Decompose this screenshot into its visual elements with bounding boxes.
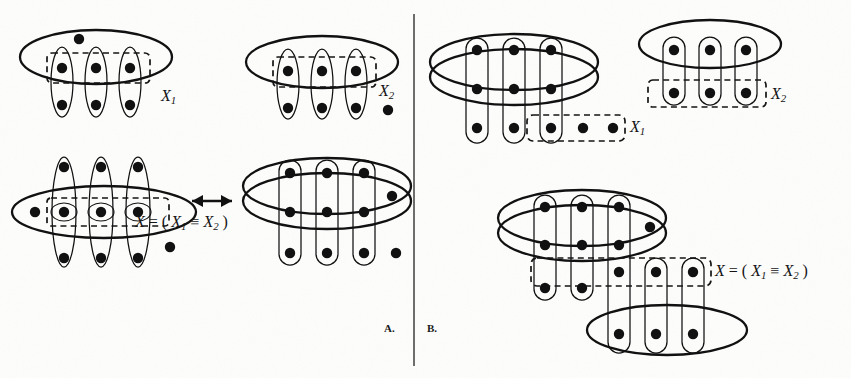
dot — [91, 63, 101, 73]
label-b-equation: X = ( X1 ≡ X2 ) — [715, 262, 808, 281]
dot — [540, 283, 550, 293]
free-dot — [383, 105, 393, 115]
dot — [651, 329, 661, 339]
dot — [546, 45, 556, 55]
dot — [57, 63, 67, 73]
free-dot — [578, 123, 588, 133]
dot — [317, 66, 327, 76]
dot — [322, 207, 332, 217]
dot — [30, 207, 40, 217]
dot — [472, 45, 482, 55]
dot — [359, 248, 369, 258]
dot — [705, 45, 715, 55]
dot — [359, 168, 369, 178]
dot — [59, 253, 69, 263]
free-dot — [387, 191, 397, 201]
dot — [59, 207, 69, 217]
dot — [59, 162, 69, 172]
dot — [509, 123, 519, 133]
dot — [614, 329, 624, 339]
dot — [509, 84, 519, 94]
dot — [133, 162, 143, 172]
figure-svg: .s { fill:none; stroke:#111; stroke-widt… — [0, 0, 851, 378]
label-a-x1: X1 — [161, 87, 176, 106]
dot — [96, 253, 106, 263]
dot — [283, 103, 293, 113]
dot — [614, 202, 624, 212]
dot — [669, 88, 679, 98]
panel-letter-b: B. — [427, 322, 437, 334]
dot — [741, 45, 751, 55]
dot — [57, 100, 67, 110]
dot — [472, 84, 482, 94]
dot — [651, 267, 661, 277]
dot — [285, 207, 295, 217]
label-a-x2: X2 — [379, 82, 394, 101]
dot — [322, 168, 332, 178]
dot — [285, 168, 295, 178]
dot — [285, 248, 295, 258]
dot — [283, 66, 293, 76]
dot — [688, 267, 698, 277]
label-b-x1: X1 — [630, 118, 645, 137]
dot — [705, 88, 715, 98]
dot — [351, 66, 361, 76]
dot — [96, 207, 106, 217]
figure-root: .s { fill:none; stroke:#111; stroke-widt… — [0, 0, 851, 378]
dot — [317, 103, 327, 113]
dot — [614, 267, 624, 277]
dot — [577, 202, 587, 212]
dot — [133, 253, 143, 263]
dot — [614, 240, 624, 250]
dot — [91, 100, 101, 110]
label-a-equation: X = ( X1 ≡ X2 ) — [135, 213, 228, 232]
dot — [546, 84, 556, 94]
dot — [741, 88, 751, 98]
free-dot — [608, 123, 618, 133]
panel-letter-a: A. — [384, 322, 395, 334]
label-b-x2: X2 — [771, 85, 786, 104]
dot — [546, 123, 556, 133]
dot — [125, 63, 135, 73]
dot — [322, 248, 332, 258]
dot — [96, 162, 106, 172]
dot — [125, 100, 135, 110]
dot — [540, 202, 550, 212]
dot — [351, 103, 361, 113]
dot — [669, 45, 679, 55]
dot — [577, 240, 587, 250]
dot — [577, 283, 587, 293]
free-dot — [645, 222, 655, 232]
free-dot — [391, 248, 401, 258]
dot — [472, 123, 482, 133]
dot — [688, 329, 698, 339]
dot — [74, 34, 84, 44]
dot — [540, 240, 550, 250]
dot — [359, 207, 369, 217]
free-dot — [165, 242, 175, 252]
dot — [509, 45, 519, 55]
